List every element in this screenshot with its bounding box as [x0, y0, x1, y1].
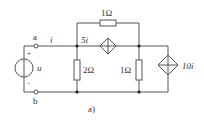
- resistor-2ohm: 2Ω: [74, 60, 95, 80]
- svg-text:i: i: [50, 35, 53, 45]
- svg-text:5i: 5i: [81, 35, 89, 45]
- svg-text:u: u: [37, 63, 42, 73]
- svg-text:2Ω: 2Ω: [83, 65, 95, 75]
- current-arrow-i: i: [50, 35, 53, 45]
- dependent-source-5i: 5i: [81, 35, 116, 54]
- terminal-b: b: [33, 90, 38, 106]
- svg-text:−: −: [27, 80, 31, 88]
- resistor-top-1ohm: 1Ω: [100, 8, 116, 26]
- svg-text:+: +: [27, 50, 31, 58]
- svg-text:a: a: [33, 32, 37, 42]
- dependent-source-10i: 10i: [158, 55, 194, 75]
- svg-text:1Ω: 1Ω: [120, 65, 132, 75]
- voltage-source-u: + − u: [15, 50, 42, 88]
- svg-text:1Ω: 1Ω: [101, 8, 113, 18]
- svg-text:b: b: [33, 96, 38, 106]
- terminal-a: a: [33, 32, 38, 48]
- resistor-right-1ohm: 1Ω: [120, 60, 142, 80]
- svg-text:10i: 10i: [182, 61, 194, 71]
- circuit-diagram: + − u a b i 1Ω 5i 2Ω 1Ω 10i: [0, 0, 204, 121]
- figure-caption: a): [88, 104, 95, 114]
- wires: [24, 23, 168, 92]
